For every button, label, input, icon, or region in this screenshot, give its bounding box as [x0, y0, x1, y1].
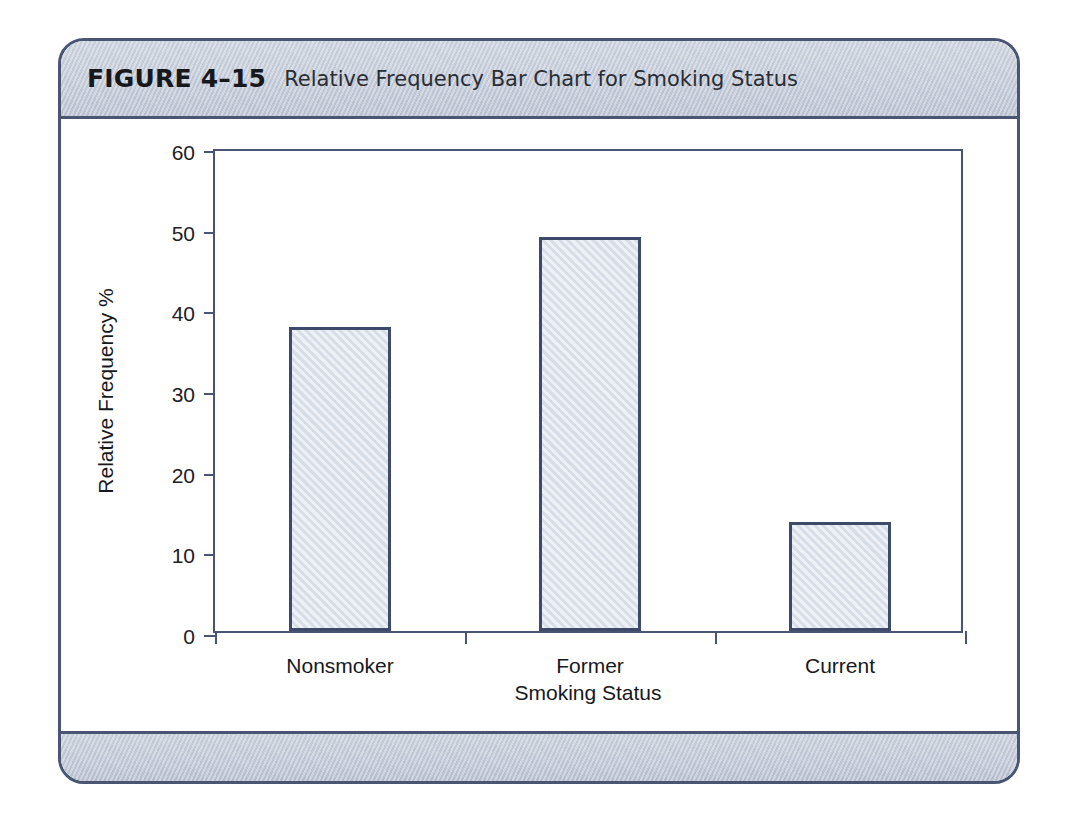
x-axis-tick [215, 631, 217, 644]
y-axis-tick-label: 30 [172, 383, 195, 407]
bar [539, 237, 642, 631]
bar [789, 522, 892, 631]
figure-number: FIGURE 4–15 [87, 64, 266, 93]
y-axis-title: Relative Frequency % [94, 288, 118, 493]
bars-layer [215, 151, 961, 631]
y-axis-tick: 40 [204, 312, 215, 314]
y-axis-tick-label: 0 [183, 625, 195, 649]
figure-caption: Relative Frequency Bar Chart for Smoking… [284, 67, 798, 91]
y-axis-tick: 10 [204, 554, 215, 556]
x-axis-tick-label: Former [556, 654, 624, 678]
figure-card: FIGURE 4–15 Relative Frequency Bar Chart… [58, 38, 1020, 784]
y-axis-tick-label: 60 [172, 141, 195, 165]
y-axis-tick: 60 [204, 151, 215, 153]
y-axis-tick: 30 [204, 393, 215, 395]
figure-footer [61, 731, 1017, 781]
x-axis-tick-label: Current [805, 654, 875, 678]
x-axis-tick-label: Nonsmoker [286, 654, 393, 678]
y-axis-tick: 50 [204, 232, 215, 234]
x-axis-title: Smoking Status [213, 681, 963, 705]
bar-chart: Relative Frequency % 0102030405060Nonsmo… [61, 119, 1017, 731]
figure-header: FIGURE 4–15 Relative Frequency Bar Chart… [61, 41, 1017, 119]
x-axis-tick [465, 631, 467, 644]
x-axis-tick [715, 631, 717, 644]
y-axis-tick-label: 40 [172, 302, 195, 326]
y-axis-tick: 0 [204, 635, 215, 637]
bar [289, 327, 392, 631]
y-axis-tick-label: 20 [172, 464, 195, 488]
y-axis-tick: 20 [204, 474, 215, 476]
x-axis-tick [965, 631, 967, 644]
plot-area: 0102030405060NonsmokerFormerCurrent [213, 149, 963, 633]
y-axis-tick-label: 50 [172, 222, 195, 246]
figure-body: Relative Frequency % 0102030405060Nonsmo… [61, 119, 1017, 731]
y-axis-tick-label: 10 [172, 544, 195, 568]
